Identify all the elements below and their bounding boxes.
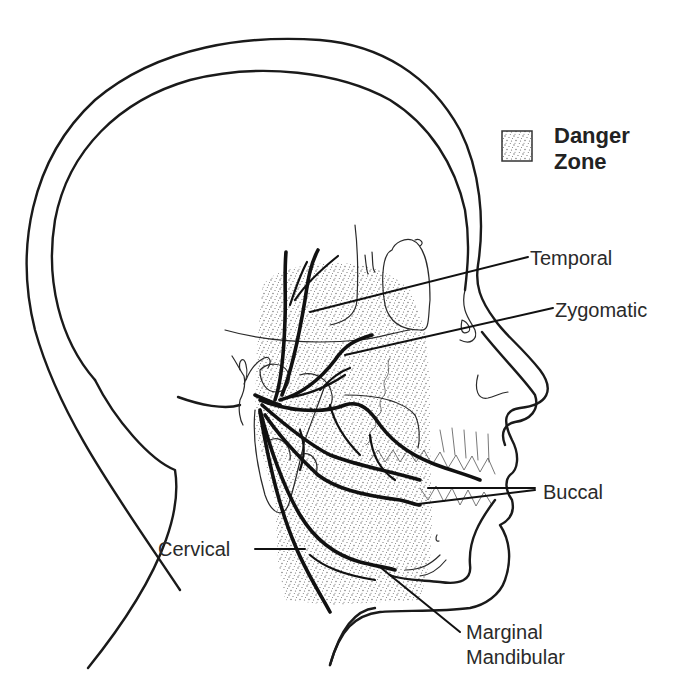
label-zygomatic: Zygomatic — [555, 299, 647, 321]
mental-foramen — [436, 535, 439, 541]
nasal-bone — [460, 290, 476, 342]
label-buccal: Buccal — [543, 481, 603, 503]
neck-back-outline — [88, 380, 176, 668]
nostril — [476, 375, 508, 398]
legend-label-danger: Danger — [554, 124, 630, 148]
tooth-roots — [440, 428, 489, 462]
label-temporal: Temporal — [530, 247, 612, 269]
label-mandibular: Mandibular — [466, 646, 565, 668]
label-cervical: Cervical — [158, 538, 230, 560]
facial-nerve-diagram — [0, 0, 695, 700]
legend-swatch — [502, 131, 532, 161]
legend-label-zone: Zone — [554, 150, 607, 174]
nose-outline — [482, 332, 536, 445]
neck-front-outline — [330, 608, 375, 665]
leader-buccal — [418, 488, 535, 504]
label-marginal: Marginal — [466, 621, 543, 643]
skull-base-curve — [178, 397, 240, 407]
